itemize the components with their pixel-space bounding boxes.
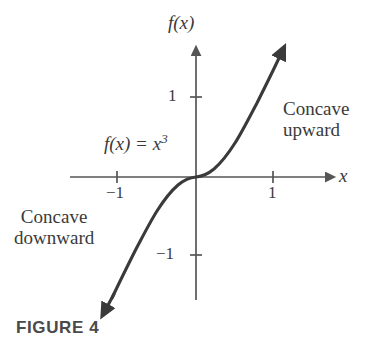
x-axis-label: x [339, 165, 347, 186]
equation-base: f(x) = x [104, 133, 161, 154]
annotation-concave-upward: Concave upward [283, 98, 349, 141]
figure-caption: FIGURE 4 [16, 318, 99, 338]
curve-arrow-lower-left [107, 294, 114, 307]
y-tick-label-pos1: 1 [168, 86, 177, 105]
annotation-concave-downward: Concave downward [14, 206, 94, 249]
annotation-concave-downward-line1: Concave [14, 206, 94, 227]
annotation-concave-upward-line2: upward [283, 119, 349, 140]
cubic-function-plot [0, 0, 368, 357]
annotation-concave-downward-line2: downward [14, 227, 94, 248]
x-tick-label-neg1: −1 [106, 183, 124, 202]
x-tick-label-pos1: 1 [268, 183, 277, 202]
annotation-concave-upward-line1: Concave [283, 98, 349, 119]
y-tick-label-neg1: −1 [156, 244, 174, 263]
y-axis-label: f(x) [168, 12, 194, 33]
figure-container: f(x) x f(x) = x3 −1 1 1 −1 Concave upwar… [0, 0, 368, 357]
equation-exponent: 3 [161, 131, 168, 146]
equation-label: f(x) = x3 [104, 132, 168, 155]
